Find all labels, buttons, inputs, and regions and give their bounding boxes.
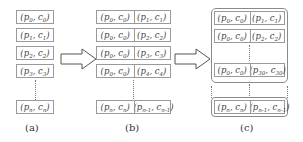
pair-row: (p0, c0)(p30, c30): [214, 63, 285, 77]
ellipsis-dots: [287, 86, 288, 98]
pair-cell: (p0, c0): [97, 29, 134, 41]
cell-divider: [134, 101, 135, 113]
pair-row: (pn, cn)(pn-1, cn-1): [96, 100, 171, 114]
pair-cell: (p1, c1): [16, 28, 54, 42]
pair-cell: (pn, cn): [97, 101, 134, 113]
cell-divider: [134, 65, 135, 77]
pair-cell: (p2, c2): [134, 29, 171, 41]
pair-cell: (p0, c0): [215, 30, 250, 42]
panel-b-label: (b): [125, 122, 139, 133]
pair-cell: (p0, c0): [97, 11, 134, 23]
cell-divider: [250, 64, 251, 76]
ellipsis-dots: [211, 86, 212, 98]
panel-a-label: (a): [25, 122, 39, 133]
right-arrow-icon: [174, 48, 212, 70]
cell-divider: [134, 11, 135, 23]
cell-divider: [250, 101, 251, 113]
cell-divider: [250, 12, 251, 24]
ellipsis-dots: [249, 45, 250, 61]
pair-cell: (p3, c3): [16, 64, 54, 78]
pair-cell: (pn, cn): [16, 100, 54, 114]
pair-row: (p0, c0)(p3, c3): [96, 46, 171, 60]
cell-divider: [250, 30, 251, 42]
pair-row: (p0, c0)(p2, c2): [214, 29, 285, 43]
pair-cell: (pn, cn): [215, 101, 250, 113]
pair-row: (pn, cn)(pn-1, cn-1): [214, 100, 285, 114]
pair-row: (p0, c0)(p1, c1): [214, 11, 285, 25]
ellipsis-dots: [35, 80, 36, 100]
pair-cell: (p1, c1): [134, 11, 171, 23]
pair-cell: (p3, c3): [134, 47, 171, 59]
pair-cell: (p2, c2): [16, 46, 54, 60]
pair-row: (p0, c0)(p2, c2): [96, 28, 171, 42]
pair-row: (p0, c0)(p4, c4): [96, 64, 171, 78]
pair-cell: (p0, c0): [97, 47, 134, 59]
ellipsis-dots: [249, 84, 250, 98]
ellipsis-dots: [133, 80, 134, 99]
pair-cell: (p30, c30): [250, 64, 285, 76]
pair-cell: (p0, c0): [16, 10, 54, 24]
right-arrow-icon: [60, 48, 98, 70]
pair-cell: (pn-1, cn-1): [134, 101, 171, 113]
pair-cell: (p1, c1): [250, 12, 285, 24]
pair-cell: (p2, c2): [250, 30, 285, 42]
panel-c-label: (c): [240, 122, 253, 133]
pair-cell: (p0, c0): [215, 64, 250, 76]
pair-cell: (p0, c0): [215, 12, 250, 24]
pair-row: (p0, c0)(p1, c1): [96, 10, 171, 24]
pair-cell: (p0, c0): [97, 65, 134, 77]
pair-cell: (pn-1, cn-1): [250, 101, 285, 113]
cell-divider: [134, 29, 135, 41]
pair-cell: (p4, c4): [134, 65, 171, 77]
cell-divider: [134, 47, 135, 59]
